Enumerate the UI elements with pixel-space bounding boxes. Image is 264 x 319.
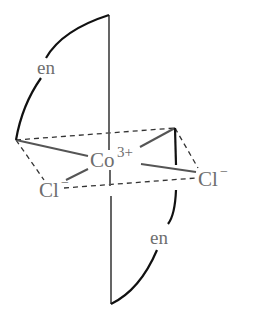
bond-left-vertex xyxy=(16,140,88,156)
en-arc-bottom-upper-b xyxy=(168,190,176,224)
en-arc-bottom-upper-a xyxy=(175,128,176,165)
en-arc-top-upper xyxy=(46,15,109,58)
bond-cl-left xyxy=(66,169,88,180)
label-en-bottom: en xyxy=(150,227,168,248)
cl-left-charge: − xyxy=(61,175,69,190)
cl-right-charge: − xyxy=(220,164,228,179)
co-charge: 3+ xyxy=(117,144,133,160)
dashed-edge-right xyxy=(175,128,198,168)
en-arc-top-lower xyxy=(16,78,41,140)
dashed-edge-back xyxy=(16,128,175,140)
co-symbol: Co xyxy=(90,148,115,172)
cl-right-symbol: Cl xyxy=(198,167,218,191)
en-arc-bottom-lower xyxy=(111,250,157,304)
label-en-top: en xyxy=(37,57,55,78)
diagram-canvas: en en Co 3+ Cl − Cl − xyxy=(0,0,264,319)
coordination-complex-diagram: en en Co 3+ Cl − Cl − xyxy=(0,0,264,319)
cl-left-symbol: Cl xyxy=(39,178,59,202)
dashed-edge-front xyxy=(64,178,196,188)
bond-cl-right xyxy=(141,164,196,172)
